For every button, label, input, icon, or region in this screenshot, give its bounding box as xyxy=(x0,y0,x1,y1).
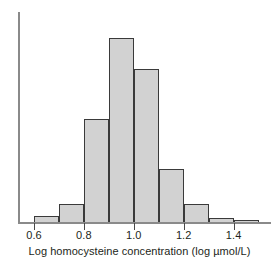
histogram-bar xyxy=(59,204,84,222)
histogram-bar xyxy=(84,119,109,222)
histogram-bar xyxy=(134,69,159,222)
histogram-bar xyxy=(209,218,234,222)
x-axis-tick-label: 0.8 xyxy=(69,229,99,241)
x-axis-tick-label: 0.6 xyxy=(19,229,49,241)
x-axis-label: Log homocysteine concentration (log µmol… xyxy=(0,245,279,257)
histogram-bar xyxy=(34,216,59,222)
histogram-bar xyxy=(234,220,259,223)
plot-area: 0.60.81.01.21.4 xyxy=(0,0,279,266)
x-axis-tick-label: 1.4 xyxy=(219,229,249,241)
x-axis-tick-label: 1.0 xyxy=(119,229,149,241)
x-axis-tick-label: 1.2 xyxy=(169,229,199,241)
y-axis-line xyxy=(18,12,20,223)
histogram-figure: 0.60.81.01.21.4 Log homocysteine concent… xyxy=(0,0,279,266)
histogram-bar xyxy=(184,204,209,222)
histogram-bar xyxy=(109,38,134,222)
histogram-bar xyxy=(159,169,184,222)
